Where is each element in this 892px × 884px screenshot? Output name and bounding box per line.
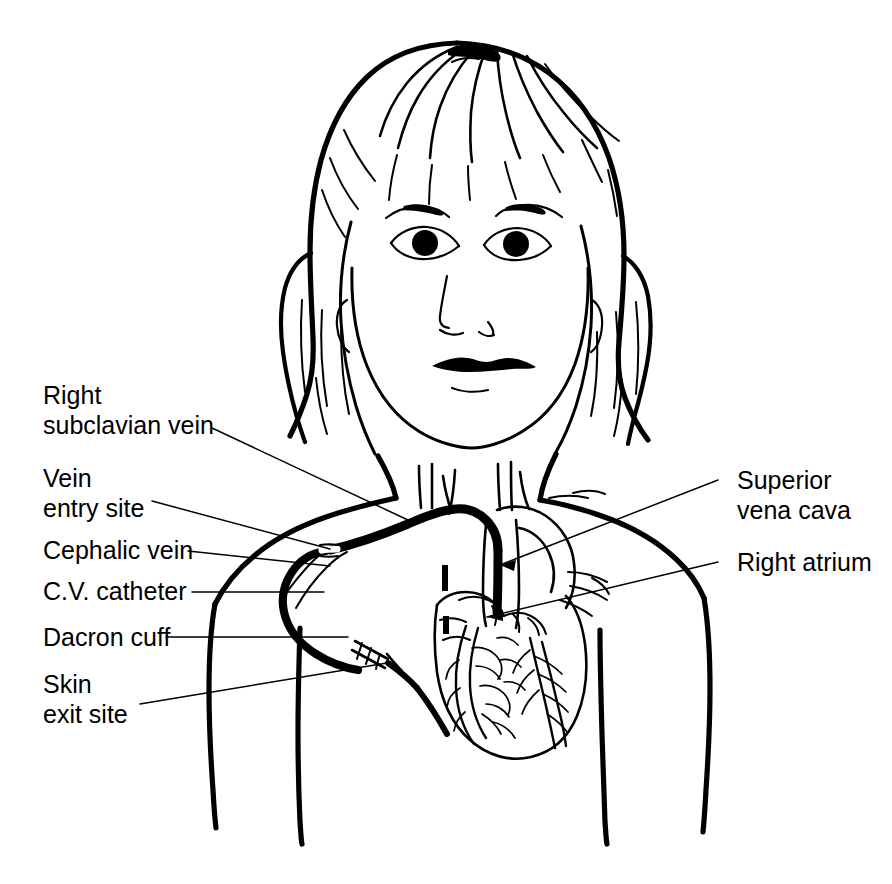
label-superior-vena-cava-line2: vena cava	[737, 496, 851, 524]
label-vein-entry-site-line2: entry site	[43, 494, 144, 522]
label-right-atrium: Right atrium	[737, 548, 872, 576]
label-right-subclavian-vein-line2: subclavian vein	[43, 411, 214, 439]
label-superior-vena-cava-line1: Superior	[737, 466, 832, 494]
label-vein-entry-site-line1: Vein	[43, 464, 92, 492]
anatomical-diagram: Right subclavian vein Vein entry site Ce…	[0, 0, 892, 884]
label-right-subclavian-vein-line1: Right	[43, 381, 101, 409]
label-skin-exit-site-line1: Skin	[43, 670, 92, 698]
diagram-root: Right subclavian vein Vein entry site Ce…	[0, 0, 892, 884]
label-dacron-cuff: Dacron cuff	[43, 623, 170, 651]
label-skin-exit-site-line2: exit site	[43, 700, 128, 728]
label-cv-catheter: C.V. catheter	[43, 577, 187, 605]
label-cephalic-vein: Cephalic vein	[43, 536, 193, 564]
